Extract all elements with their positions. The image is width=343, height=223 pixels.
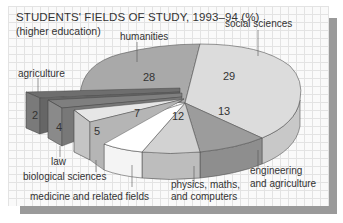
value-social-sciences: 29 (223, 70, 235, 82)
label-humanities: humanities (120, 31, 168, 42)
label-engineering-line1: engineering (250, 165, 302, 176)
label-law: law (51, 156, 67, 167)
label-engineering-line2: and agriculture (250, 178, 317, 189)
value-medicine: 7 (134, 107, 140, 119)
value-law: 4 (56, 121, 62, 133)
label-agriculture: agriculture (18, 68, 65, 79)
value-humanities: 28 (143, 71, 155, 83)
value-biological: 5 (94, 125, 100, 137)
label-biological-sciences: biological sciences (23, 171, 106, 182)
value-engineering: 13 (218, 105, 230, 117)
label-medicine: medicine and related fields (30, 191, 149, 202)
label-physics-line1: physics, maths, (171, 179, 240, 190)
slice-physics-side (142, 152, 200, 180)
label-physics-line2: and computers (171, 191, 237, 202)
label-social-sciences: social sciences (225, 18, 292, 29)
value-agriculture: 2 (32, 109, 38, 121)
pie-chart: 28 29 13 12 7 5 4 2 humanities social sc… (0, 0, 343, 223)
value-physics: 12 (172, 110, 184, 122)
